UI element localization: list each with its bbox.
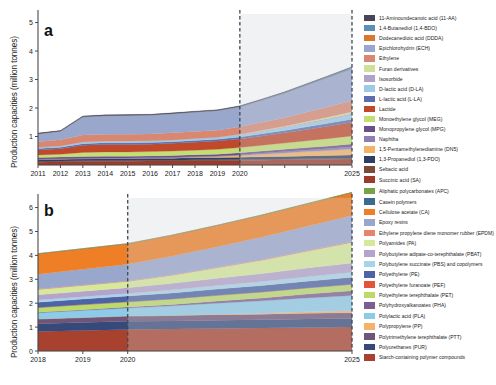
- legend-item-label: Succinic acid (SA): [379, 177, 421, 183]
- legend-item-label: Polyethylene terephthalate (PET): [379, 292, 453, 298]
- legend-swatch-icon: [364, 344, 375, 351]
- legend-item-label: Ethylene propylene diene monomer rubber …: [379, 230, 494, 236]
- legend-swatch-icon: [364, 198, 375, 205]
- legend-item-label: Polyurethanes (PUR): [379, 344, 427, 350]
- legend-item: Naphtha: [364, 134, 458, 144]
- legend-item-label: Monopropylene glycol (MPG): [379, 126, 445, 132]
- legend-item: D-lactic acid (D-LA): [364, 84, 458, 94]
- legend-item-label: Cellulose acetate (CA): [379, 209, 429, 215]
- legend-item-label: Polybutylene adipate-co-terephthalate (P…: [379, 251, 482, 257]
- legend-swatch-icon: [364, 146, 375, 153]
- legend-swatch-icon: [364, 323, 375, 330]
- forecast-shading-overlay: [240, 14, 352, 165]
- panel-a-y-axis-title: Production capacities (million tonnes): [10, 36, 19, 168]
- legend-item: Polyethylene terephthalate (PET): [364, 290, 494, 300]
- legend-item-label: Lactide: [379, 106, 396, 112]
- legend-item-label: Polytrimethylene terephthalate (PTT): [379, 334, 461, 340]
- legend-item-label: Dodecanedioic acid (DDDA): [379, 35, 443, 41]
- legend-panel-b: Aliphatic polycarbonates (APC)Casein pol…: [364, 186, 494, 363]
- legend-item: Aliphatic polycarbonates (APC): [364, 186, 494, 196]
- legend-swatch-icon: [364, 261, 375, 268]
- legend-item-label: Polyamides (PA): [379, 240, 416, 246]
- legend-item-label: Polyethylene (PE): [379, 271, 419, 277]
- x-tick-label: 2016: [142, 170, 158, 177]
- legend-item: Polylactic acid (PLA): [364, 311, 494, 321]
- legend-swatch-icon: [364, 96, 375, 103]
- legend-swatch-icon: [364, 176, 375, 183]
- x-tick-label: 2025: [344, 170, 360, 177]
- panel-a-plot: 1234520112012201320142015201620172018201…: [0, 0, 364, 188]
- x-tick-label: 2025: [344, 356, 360, 363]
- legend-item: Polyethylene furanoate (PEF): [364, 280, 494, 290]
- x-tick-label: 2015: [120, 170, 136, 177]
- legend-item-label: Ethylene: [379, 55, 399, 61]
- legend-swatch-icon: [364, 209, 375, 216]
- legend-item: Casein polymers: [364, 196, 494, 206]
- legend-item: Ethylene: [364, 53, 458, 63]
- legend-item: Polypropylene (PP): [364, 321, 494, 331]
- x-tick-label: 2012: [53, 170, 69, 177]
- legend-item: Polyamides (PA): [364, 238, 494, 248]
- legend-swatch-icon: [364, 333, 375, 340]
- y-tick-label: 5: [29, 228, 33, 235]
- legend-item-label: 1,5-Pentamethylenediamine (DN5): [379, 146, 458, 152]
- legend-panel-a: 11-Aminoundecanoic acid (11-AA)1,4-Butan…: [364, 13, 458, 185]
- legend-item-label: Naphtha: [379, 136, 398, 142]
- legend-item: 1,5-Pentamethylenediamine (DN5): [364, 144, 458, 154]
- legend-item-label: Isosorbide: [379, 76, 403, 82]
- legend-item-label: Polybutylene succinate (PBS) and copolym…: [379, 261, 482, 267]
- legend-item-label: Epoxy resins: [379, 219, 408, 225]
- legend-item-label: Epichlorohydrin (ECH): [379, 45, 430, 51]
- y-tick-label: 6: [29, 204, 33, 211]
- y-tick-label: 1: [29, 324, 33, 331]
- legend-item-label: Monoethylene glycol (MEG): [379, 116, 442, 122]
- legend-item: Lactide: [364, 104, 458, 114]
- legend-item: Monopropylene glycol (MPG): [364, 124, 458, 134]
- legend-item: Epichlorohydrin (ECH): [364, 43, 458, 53]
- x-tick-label: 2019: [210, 170, 226, 177]
- legend-item-label: Sebacic acid: [379, 166, 408, 172]
- legend-swatch-icon: [364, 126, 375, 133]
- legend-swatch-icon: [364, 281, 375, 288]
- legend-item-label: 11-Aminoundecanoic acid (11-AA): [379, 15, 456, 21]
- legend-item: Polyurethanes (PUR): [364, 342, 494, 352]
- legend-item: Polybutylene succinate (PBS) and copolym…: [364, 259, 494, 269]
- y-tick-label: 0: [29, 348, 33, 355]
- legend-item-label: 1,3-Propanediol (1,3-PDO): [379, 156, 440, 162]
- legend-item: L-lactic acid (L-LA): [364, 94, 458, 104]
- legend-item-label: L-lactic acid (L-LA): [379, 96, 422, 102]
- panel-b-plot: 01234562018201920202025: [0, 188, 364, 385]
- legend-swatch-icon: [364, 106, 375, 113]
- legend-swatch-icon: [364, 188, 375, 195]
- legend-swatch-icon: [364, 65, 375, 72]
- legend-item: 1,3-Propanediol (1,3-PDO): [364, 154, 458, 164]
- legend-swatch-icon: [364, 35, 375, 42]
- x-tick-label: 2018: [187, 170, 203, 177]
- panel-a-letter: a: [44, 22, 53, 40]
- x-tick-label: 2020: [120, 356, 136, 363]
- legend-item-label: Casein polymers: [379, 199, 417, 205]
- legend-item: Starch-containing polymer compounds: [364, 352, 494, 362]
- legend-item: Polyethylene (PE): [364, 269, 494, 279]
- legend-item: Polyhydroxyalkanoates (PHA): [364, 300, 494, 310]
- legend-item: Polybutylene adipate-co-terephthalate (P…: [364, 248, 494, 258]
- x-tick-label: 2019: [75, 356, 91, 363]
- legend-swatch-icon: [364, 354, 375, 361]
- y-tick-label: 4: [29, 48, 33, 55]
- y-tick-label: 2: [29, 105, 33, 112]
- legend-swatch-icon: [364, 136, 375, 143]
- legend-swatch-icon: [364, 25, 375, 32]
- legend-item-label: Furan derivatives: [379, 66, 418, 72]
- legend-item-label: Polypropylene (PP): [379, 323, 422, 329]
- x-tick-label: 2018: [30, 356, 46, 363]
- legend-item-label: 1,4-Butanediol (1,4-BDO): [379, 25, 437, 31]
- legend-swatch-icon: [364, 271, 375, 278]
- legend-item: Isosorbide: [364, 74, 458, 84]
- legend-item-label: Aliphatic polycarbonates (APC): [379, 188, 449, 194]
- y-tick-label: 5: [29, 19, 33, 26]
- legend-swatch-icon: [364, 313, 375, 320]
- y-tick-label: 2: [29, 300, 33, 307]
- legend-item: Sebacic acid: [364, 164, 458, 174]
- legend-swatch-icon: [364, 240, 375, 247]
- x-tick-label: 2017: [165, 170, 181, 177]
